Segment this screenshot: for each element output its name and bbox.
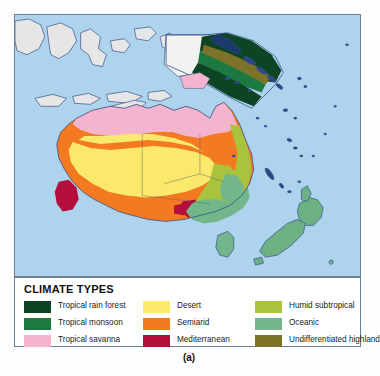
legend-item-mediterranean: Mediterranean [143,333,263,348]
legend-label-mediterranean: Mediterranean [177,336,230,344]
figure-caption: (a) [0,352,378,363]
legend-swatch-desert [143,301,170,313]
legend-label-undifferentiated-highland: Undifferentiated highland [289,336,380,344]
legend-column-2: Desert Semiarid Mediterranean [143,299,263,350]
legend-swatch-semiarid [143,318,170,330]
legend-label-semiarid: Semiarid [177,319,209,327]
legend-item-tropical-rain-forest: Tropical rain forest [24,299,144,314]
legend-swatch-humid-subtropical [255,301,282,313]
legend-swatch-tropical-savanna [24,335,51,347]
legend-swatch-mediterranean [143,335,170,347]
map-legend: CLIMATE TYPES Tropical rain forest Tropi… [14,277,361,347]
legend-item-oceanic: Oceanic [255,316,365,331]
legend-swatch-oceanic [255,318,282,330]
legend-swatch-tropical-monsoon [24,318,51,330]
legend-label-desert: Desert [177,302,201,310]
legend-item-tropical-savanna: Tropical savanna [24,333,144,348]
legend-item-desert: Desert [143,299,263,314]
legend-swatch-tropical-rain-forest [24,301,51,313]
legend-column-3: Humid subtropical Oceanic Undifferentiat… [255,299,365,350]
legend-label-tropical-savanna: Tropical savanna [58,336,120,344]
legend-label-tropical-rain-forest: Tropical rain forest [58,302,126,310]
legend-label-tropical-monsoon: Tropical monsoon [58,319,123,327]
legend-item-undifferentiated-highland: Undifferentiated highland [255,333,365,348]
map-frame [14,14,361,277]
legend-item-tropical-monsoon: Tropical monsoon [24,316,144,331]
legend-title: CLIMATE TYPES [24,283,114,295]
chatham-island [329,260,333,264]
map-canvas [15,15,360,276]
tasmania-oceanic [216,231,234,257]
legend-label-oceanic: Oceanic [289,319,319,327]
legend-item-semiarid: Semiarid [143,316,263,331]
legend-label-humid-subtropical: Humid subtropical [289,302,355,310]
legend-item-humid-subtropical: Humid subtropical [255,299,365,314]
legend-column-1: Tropical rain forest Tropical monsoon Tr… [24,299,144,350]
legend-swatch-undifferentiated-highland [255,335,282,347]
